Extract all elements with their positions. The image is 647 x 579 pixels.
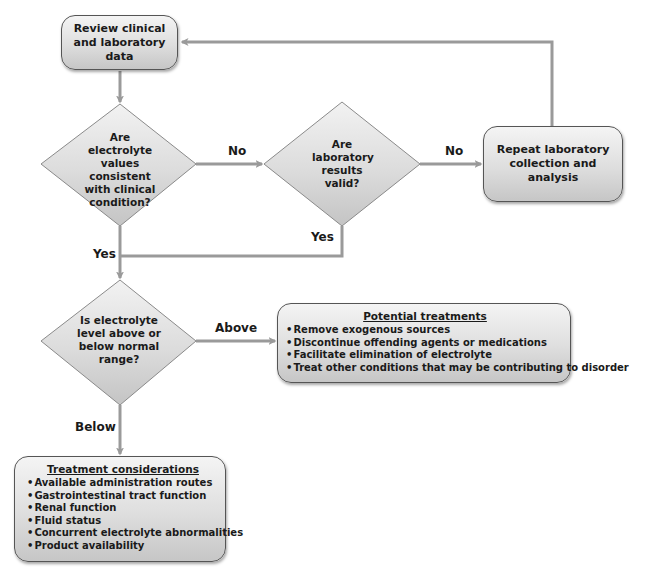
node-potential-treatments: Potential treatments Remove exogenous so… bbox=[277, 303, 571, 383]
arrow-repeat-to-review bbox=[182, 42, 552, 126]
node-valid-label: Are laboratory results valid? bbox=[312, 138, 372, 190]
node-treatment-considerations: Treatment considerations Available admin… bbox=[14, 456, 226, 562]
node-review-label: Review clinical and laboratory data bbox=[70, 22, 169, 64]
flowchart: Review clinical and laboratory data Are … bbox=[0, 0, 647, 579]
edge-label-level-below: Below bbox=[75, 420, 116, 434]
potential-treatments-heading: Potential treatments bbox=[286, 309, 564, 323]
list-item: Facilitate elimination of electrolyte bbox=[286, 349, 564, 362]
potential-treatments-list: Remove exogenous sources Discontinue off… bbox=[286, 324, 564, 374]
list-item: Product availability bbox=[27, 540, 219, 553]
node-review: Review clinical and laboratory data bbox=[61, 15, 178, 70]
edge-label-valid-no: No bbox=[445, 144, 463, 158]
edge-label-consistent-no: No bbox=[228, 144, 246, 158]
list-item: Treat other conditions that may be contr… bbox=[286, 362, 564, 375]
node-repeat: Repeat laboratory collection and analysi… bbox=[483, 126, 623, 202]
treatment-considerations-list: Available administration routes Gastroin… bbox=[27, 477, 219, 553]
list-item: Fluid status bbox=[27, 515, 219, 528]
list-item: Renal function bbox=[27, 502, 219, 515]
node-level-label: Is electrolyte level above or below norm… bbox=[76, 314, 162, 366]
line-valid-yes bbox=[120, 226, 342, 256]
edge-label-level-above: Above bbox=[215, 321, 257, 335]
node-repeat-label: Repeat laboratory collection and analysi… bbox=[490, 143, 616, 185]
list-item: Remove exogenous sources bbox=[286, 324, 564, 337]
list-item: Gastrointestinal tract function bbox=[27, 490, 219, 503]
treatment-considerations-heading: Treatment considerations bbox=[27, 462, 219, 476]
edge-label-consistent-yes: Yes bbox=[93, 247, 116, 261]
node-consistent-label: Are electrolyte values consistent with c… bbox=[76, 131, 164, 209]
list-item: Available administration routes bbox=[27, 477, 219, 490]
list-item: Concurrent electrolyte abnormalities bbox=[27, 527, 219, 540]
list-item: Discontinue offending agents or medicati… bbox=[286, 337, 564, 350]
edge-label-valid-yes: Yes bbox=[311, 230, 334, 244]
